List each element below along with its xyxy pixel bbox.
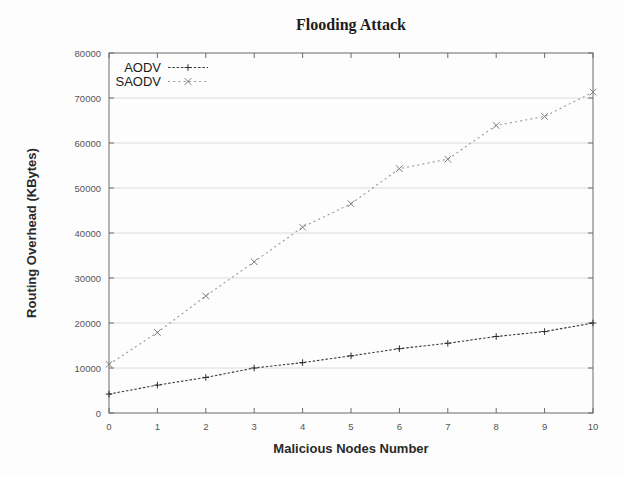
y-tick-label: 30000 <box>75 273 101 284</box>
x-tick-label: 10 <box>588 421 599 432</box>
y-tick-label: 20000 <box>75 318 101 329</box>
y-tick-label: 10000 <box>75 363 101 374</box>
x-axis-title: Malicious Nodes Number <box>273 441 428 456</box>
x-tick-label: 5 <box>348 421 353 432</box>
data-point-marker <box>348 353 355 360</box>
data-point-marker <box>493 122 500 129</box>
data-point-marker <box>203 293 210 300</box>
data-point-marker <box>203 374 210 381</box>
legend-item-aodv: AODV <box>124 60 208 75</box>
y-tick-label: 40000 <box>75 228 101 239</box>
plot-area: 0123456789100100002000030000400005000060… <box>75 48 599 433</box>
figure-page: Flooding Attack Malicious Nodes Number R… <box>0 0 623 477</box>
data-point-marker <box>493 333 500 340</box>
data-point-marker <box>348 200 355 207</box>
y-tick-label: 50000 <box>75 183 101 194</box>
series-markers-saodv <box>106 89 597 368</box>
line-chart: Flooding Attack Malicious Nodes Number R… <box>0 0 623 477</box>
legend-label: SAODV <box>115 74 161 89</box>
data-point-marker <box>445 156 452 163</box>
x-tick-label: 8 <box>494 421 499 432</box>
x-tick-label: 9 <box>542 421 547 432</box>
x-tick-label: 0 <box>106 421 111 432</box>
series-line-saodv <box>109 92 593 364</box>
y-tick-label: 70000 <box>75 93 101 104</box>
legend-item-saodv: SAODV <box>115 74 208 89</box>
x-tick-label: 2 <box>203 421 208 432</box>
x-tick-label: 4 <box>300 421 305 432</box>
series-markers-aodv <box>106 320 597 398</box>
x-tick-label: 7 <box>445 421 450 432</box>
x-tick-label: 3 <box>252 421 257 432</box>
y-axis-title: Routing Overhead (KBytes) <box>24 148 39 318</box>
data-point-marker <box>396 345 403 352</box>
legend: AODVSAODV <box>115 60 208 89</box>
legend-sample-marker <box>185 64 192 71</box>
data-point-marker <box>299 359 306 366</box>
data-point-marker <box>106 391 113 398</box>
chart-title: Flooding Attack <box>296 16 406 34</box>
y-tick-label: 80000 <box>75 48 101 59</box>
data-point-marker <box>299 224 306 231</box>
y-tick-label: 0 <box>96 408 101 419</box>
data-point-marker <box>541 328 548 335</box>
data-point-marker <box>251 259 258 266</box>
legend-label: AODV <box>124 60 161 75</box>
data-point-marker <box>445 340 452 347</box>
data-point-marker <box>154 329 161 336</box>
data-point-marker <box>396 165 403 172</box>
data-point-marker <box>590 320 597 327</box>
data-point-marker <box>154 382 161 389</box>
y-tick-label: 60000 <box>75 138 101 149</box>
x-tick-label: 6 <box>397 421 402 432</box>
x-tick-label: 1 <box>155 421 160 432</box>
data-point-marker <box>251 365 258 372</box>
